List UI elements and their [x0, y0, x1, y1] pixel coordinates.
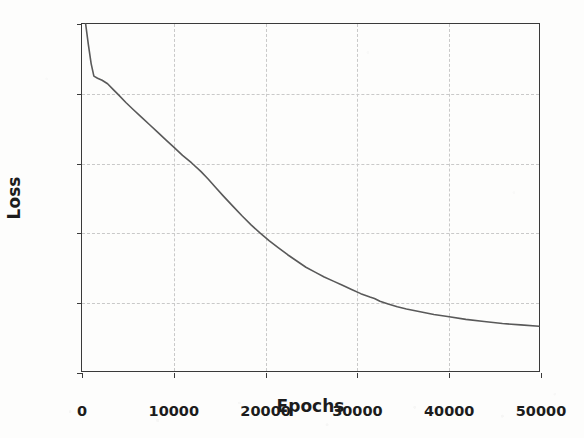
x-tick-mark: [541, 373, 542, 378]
series-path-loss: [86, 24, 539, 326]
x-tick-mark: [357, 373, 358, 378]
y-axis-label: Loss: [0, 23, 28, 372]
x-tick-mark: [174, 373, 175, 378]
x-tick-label: 30000: [332, 403, 382, 419]
x-tick-label: 10000: [149, 403, 199, 419]
loss-curve-figure: Loss Epochs 0.000.010.020.030.040.05 010…: [0, 0, 584, 438]
plot-area: 0.000.010.020.030.040.05 010000200003000…: [81, 23, 540, 372]
x-tick-label: 50000: [516, 403, 566, 419]
x-tick-label: 0: [77, 403, 87, 419]
x-tick-mark: [449, 373, 450, 378]
x-tick-label: 40000: [424, 403, 474, 419]
y-axis-label-text: Loss: [4, 176, 24, 219]
x-tick-mark: [266, 373, 267, 378]
x-tick-label: 20000: [240, 403, 290, 419]
x-tick-mark: [82, 373, 83, 378]
loss-series-line: [82, 24, 539, 371]
